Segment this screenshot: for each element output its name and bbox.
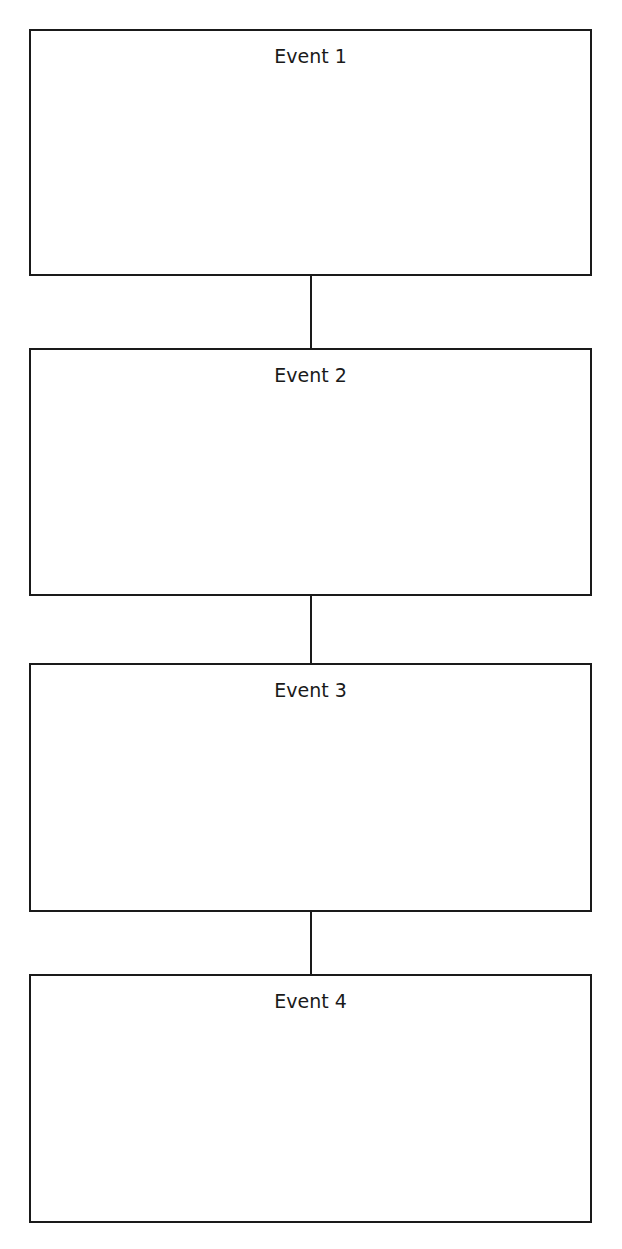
event-title-2: Event 2 bbox=[31, 364, 590, 386]
event-title-3: Event 3 bbox=[31, 679, 590, 701]
event-box-4: Event 4 bbox=[29, 974, 592, 1223]
event-box-2: Event 2 bbox=[29, 348, 592, 596]
event-box-1: Event 1 bbox=[29, 29, 592, 276]
connector-2-3 bbox=[310, 594, 312, 663]
connector-1-2 bbox=[310, 274, 312, 348]
event-title-4: Event 4 bbox=[31, 990, 590, 1012]
event-box-3: Event 3 bbox=[29, 663, 592, 912]
connector-3-4 bbox=[310, 910, 312, 974]
event-title-1: Event 1 bbox=[31, 45, 590, 67]
